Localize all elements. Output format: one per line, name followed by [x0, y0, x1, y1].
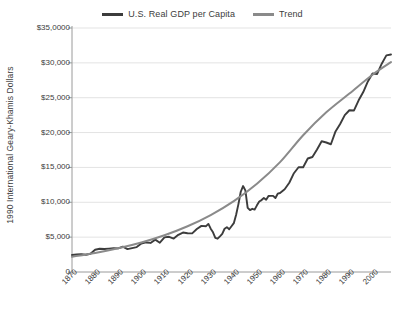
x-tick-label: 1880 [83, 267, 102, 286]
x-tick-label: 1910 [152, 267, 171, 286]
x-axis-tick-labels: 1870188018901900191019201930194019501960… [0, 0, 405, 309]
x-tick-label: 1970 [291, 267, 310, 286]
x-tick-label: 1980 [314, 267, 333, 286]
chart-container: U.S. Real GDP per Capita Trend 1990 Inte… [0, 0, 405, 309]
x-tick-label: 1950 [245, 267, 264, 286]
x-tick-label: 1930 [199, 267, 218, 286]
x-tick-label: 1870 [60, 267, 79, 286]
x-tick-label: 1920 [176, 267, 195, 286]
x-tick-label: 1940 [222, 267, 241, 286]
x-tick-label: 1890 [106, 267, 125, 286]
x-tick-label: 2000 [361, 267, 380, 286]
x-tick-label: 1900 [129, 267, 148, 286]
x-tick-label: 1990 [337, 267, 356, 286]
x-tick-label: 1960 [268, 267, 287, 286]
